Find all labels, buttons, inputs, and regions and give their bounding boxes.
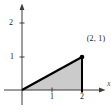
figure-canvas — [0, 0, 111, 112]
x-axis-arrowhead-icon — [99, 88, 106, 93]
x-axis-variable-label: x — [107, 80, 111, 88]
x-tick-label-2: 2 — [80, 93, 84, 101]
point-coordinate-label: (2, 1) — [87, 35, 106, 43]
y-tick-label-1: 1 — [10, 53, 14, 61]
y-axis-arrowhead-icon — [20, 4, 25, 11]
vertex-dot — [80, 55, 85, 60]
triangle-figure: 2 1 1 2 (2, 1) x — [0, 0, 111, 112]
x-tick-label-1: 1 — [50, 93, 54, 101]
y-tick-label-2: 2 — [9, 19, 13, 27]
